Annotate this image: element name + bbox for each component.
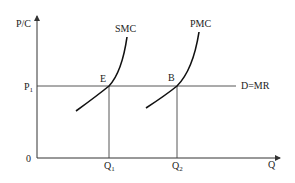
pmc-curve bbox=[146, 32, 199, 108]
price-p1-label: P1 bbox=[24, 81, 34, 94]
pmc-label: PMC bbox=[190, 18, 211, 29]
economics-diagram: P/C Q 0 P1 D=MR SMC PMC E B Q1 Q2 bbox=[0, 0, 295, 183]
d-mr-label: D=MR bbox=[241, 80, 270, 91]
x-axis-label: Q bbox=[268, 159, 276, 170]
point-b-label: B bbox=[168, 72, 175, 83]
q2-label: Q2 bbox=[172, 160, 183, 173]
y-axis-label: P/C bbox=[16, 18, 31, 29]
smc-label: SMC bbox=[115, 23, 136, 34]
origin-label: 0 bbox=[26, 153, 31, 164]
point-e-label: E bbox=[100, 73, 106, 84]
q1-label: Q1 bbox=[104, 160, 115, 173]
